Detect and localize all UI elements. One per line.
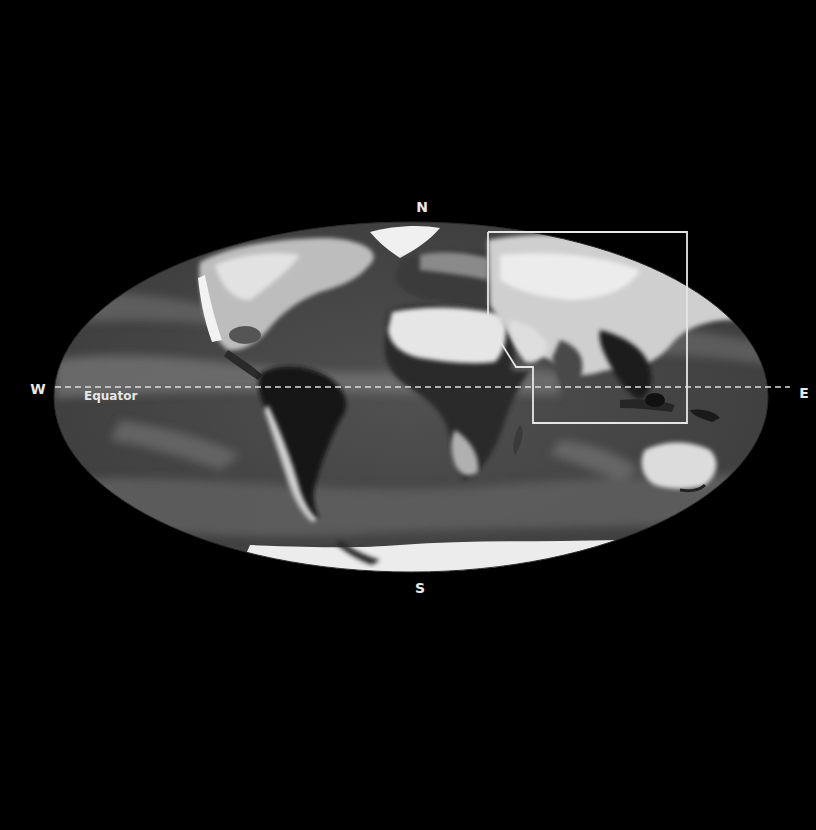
- globe: [40, 215, 780, 590]
- west-label: W: [30, 381, 45, 397]
- map-graphic: [0, 0, 816, 830]
- east-label: E: [799, 385, 809, 401]
- equator-label: Equator: [84, 389, 137, 403]
- north-label: N: [416, 199, 428, 215]
- world-map: N S W E Equator: [0, 0, 816, 830]
- south-label: S: [415, 580, 425, 596]
